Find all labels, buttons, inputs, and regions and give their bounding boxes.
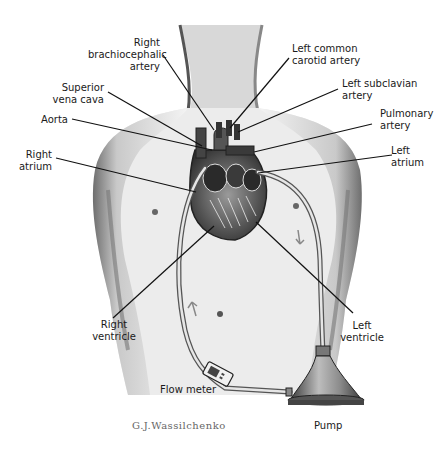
label-pump: Pump [314,420,342,432]
label-superior-vena-cava: Superior vena cava [48,82,104,106]
label-left-ventricle: Left ventricle [332,320,392,344]
artist-signature: G.J.Wassilchenko [132,420,226,431]
label-left-subclavian-artery: Left subclavian artery [342,78,417,102]
diagram: Right brachiocephalic artery Superior ve… [0,0,447,449]
label-aorta: Aorta [30,114,68,126]
label-left-atrium: Left atrium [391,145,424,169]
label-left-common-carotid-artery: Left common carotid artery [292,43,360,67]
illustration [0,0,447,449]
label-pulmonary-artery: Pulmonary artery [380,108,433,132]
label-right-atrium: Right atrium [10,149,52,173]
label-flow-meter: Flow meter [160,384,216,396]
label-right-ventricle: Right ventricle [84,319,144,343]
label-right-brachiocephalic-artery: Right brachiocephalic artery [88,37,160,73]
